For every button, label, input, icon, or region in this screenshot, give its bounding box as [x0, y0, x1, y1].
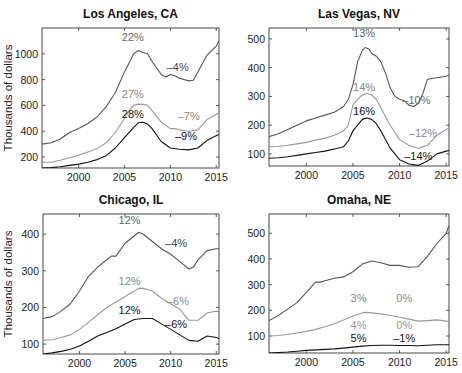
percent-annotation: 4%: [351, 319, 367, 331]
y-tick-label: 500: [247, 227, 265, 239]
percent-annotation: –9%: [175, 130, 197, 142]
panel-chicago: Chicago, IL2000200520102015100200300400T…: [2, 193, 228, 369]
series-line-bottom-tier: [42, 122, 219, 168]
y-tick-label: 600: [20, 99, 38, 111]
y-tick-label: 1000: [15, 48, 39, 60]
percent-annotation: –12%: [409, 127, 437, 139]
y-tick-label: 100: [247, 330, 265, 342]
x-tick-label: 2010: [159, 171, 183, 183]
y-tick-label: 100: [247, 148, 265, 160]
panel-los-angeles: Los Angeles, CA2000200520102015200400600…: [2, 7, 228, 183]
series-line-top-tier: [269, 226, 449, 321]
percent-annotation: 28%: [122, 108, 144, 120]
y-tick-label: 400: [20, 125, 38, 137]
x-tick-label: 2010: [388, 356, 412, 368]
percent-annotation: 14%: [353, 81, 375, 93]
x-tick-label: 2015: [435, 169, 459, 181]
house-price-chart-grid: Los Angeles, CA2000200520102015200400600…: [0, 0, 462, 373]
series-line-bottom-tier: [269, 345, 449, 353]
panel-omaha: Omaha, NE2000200520102015100200300400500…: [247, 193, 458, 368]
y-axis-label: Thousands of dollars: [2, 44, 14, 151]
x-tick-label: 2005: [341, 356, 365, 368]
x-tick-label: 2000: [295, 169, 319, 181]
percent-annotation: –6%: [165, 318, 187, 330]
chart-title: Omaha, NE: [327, 193, 391, 207]
percent-annotation: 13%: [353, 27, 375, 39]
percent-annotation: 5%: [351, 332, 367, 344]
percent-annotation: –10%: [402, 94, 430, 106]
percent-annotation: –4%: [167, 61, 189, 73]
y-tick-label: 200: [247, 119, 265, 131]
y-tick-label: 400: [21, 228, 39, 240]
chart-title: Las Vegas, NV: [318, 7, 400, 21]
percent-annotation: 0%: [396, 292, 412, 304]
x-tick-label: 2000: [295, 356, 319, 368]
x-tick-label: 2005: [113, 171, 137, 183]
x-tick-label: 2005: [113, 357, 137, 369]
percent-annotation: 12%: [119, 304, 141, 316]
chart-title: Los Angeles, CA: [83, 7, 178, 21]
percent-annotation: 3%: [351, 292, 367, 304]
chart-title: Chicago, IL: [99, 193, 164, 207]
percent-annotation: –6%: [167, 295, 189, 307]
panel-las-vegas: Las Vegas, NV200020052010201510020030040…: [247, 7, 458, 181]
y-tick-label: 300: [21, 265, 39, 277]
x-tick-label: 2010: [159, 357, 183, 369]
x-tick-label: 2005: [341, 169, 365, 181]
percent-annotation: 12%: [119, 214, 141, 226]
y-tick-label: 400: [247, 62, 265, 74]
percent-annotation: –4%: [165, 237, 187, 249]
x-tick-label: 2000: [67, 171, 91, 183]
x-tick-label: 2015: [205, 357, 229, 369]
x-tick-label: 2015: [205, 171, 229, 183]
percent-annotation: 12%: [119, 275, 141, 287]
percent-annotation: 27%: [122, 88, 144, 100]
y-tick-label: 200: [20, 151, 38, 163]
y-tick-label: 200: [247, 304, 265, 316]
x-tick-label: 2000: [68, 357, 92, 369]
percent-annotation: –7%: [178, 110, 200, 122]
y-tick-label: 500: [247, 33, 265, 45]
y-tick-label: 200: [21, 301, 39, 313]
x-tick-label: 2015: [435, 356, 459, 368]
y-axis-label: Thousands of dollars: [2, 230, 14, 337]
percent-annotation: –1%: [393, 332, 415, 344]
y-tick-label: 400: [247, 253, 265, 265]
percent-annotation: 16%: [353, 105, 375, 117]
y-tick-label: 300: [247, 90, 265, 102]
percent-annotation: 22%: [122, 31, 144, 43]
y-tick-label: 300: [247, 279, 265, 291]
percent-annotation: –14%: [404, 150, 432, 162]
series-line-bottom-tier: [43, 319, 219, 355]
percent-annotation: 0%: [396, 319, 412, 331]
x-tick-label: 2010: [388, 169, 412, 181]
y-tick-label: 800: [20, 74, 38, 86]
y-tick-label: 100: [21, 338, 39, 350]
